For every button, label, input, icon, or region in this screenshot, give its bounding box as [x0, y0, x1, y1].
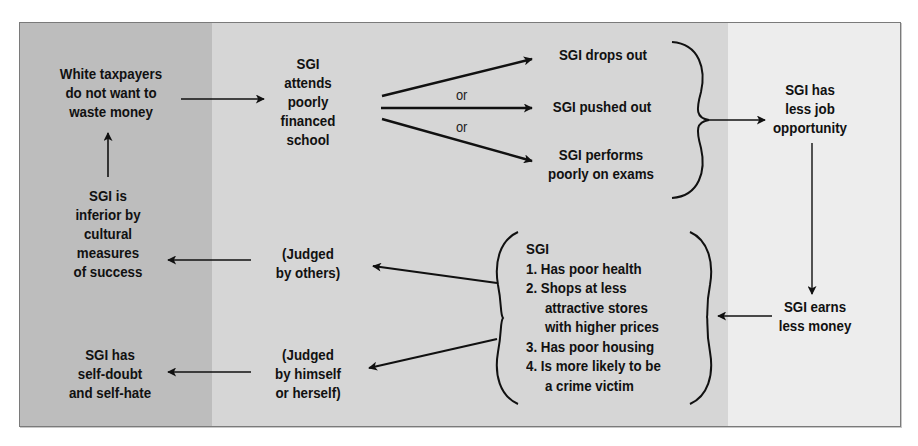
node-line: SGI drops out [547, 45, 659, 64]
node-line: and self-hate [58, 383, 161, 402]
node-line: SGI pushed out [542, 97, 662, 116]
node-inferior: SGI is inferior by cultural measures of … [65, 186, 151, 281]
node-line: measures [65, 243, 151, 262]
node-line: less job [767, 99, 853, 118]
node-earns-less: SGI earns less money [776, 297, 853, 335]
node-line: SGI is [65, 186, 151, 205]
node-line: waste money [55, 102, 167, 121]
list-item: 1. Has poor health [526, 259, 698, 279]
node-line: school [274, 130, 343, 149]
node-line: less money [776, 316, 853, 335]
node-line: (Judged [265, 345, 351, 364]
node-drops-out: SGI drops out [547, 45, 659, 64]
list-item-continuation: a crime victim [526, 376, 698, 396]
label-or-1: or [456, 86, 467, 103]
node-line: poorly [274, 92, 343, 111]
node-line: SGI [274, 54, 343, 73]
node-line: SGI has [767, 80, 853, 99]
node-line: White taxpayers [55, 64, 167, 83]
node-line: inferior by [65, 205, 151, 224]
node-line: or herself) [265, 383, 351, 402]
node-performs-poorly: SGI performs poorly on exams [537, 145, 666, 183]
node-line: by others) [265, 263, 351, 282]
node-line: opportunity [767, 118, 853, 137]
list-item-continuation: attractive stores [526, 298, 698, 318]
list-item: 2. Shops at less [526, 278, 698, 298]
list-item: 4. Is more likely to be [526, 356, 698, 376]
node-line: poorly on exams [537, 164, 666, 183]
node-line: do not want to [55, 83, 167, 102]
node-less-job: SGI has less job opportunity [767, 80, 853, 137]
node-line: SGI earns [776, 297, 853, 316]
node-self-doubt: SGI has self-doubt and self-hate [58, 345, 161, 402]
node-consequences-list: SGI 1. Has poor health 2. Shops at less … [526, 239, 698, 395]
node-pushed-out: SGI pushed out [542, 97, 662, 116]
node-line: financed [274, 111, 343, 130]
node-line: attends [274, 73, 343, 92]
node-line: self-doubt [58, 364, 161, 383]
node-attends-school: SGI attends poorly financed school [274, 54, 343, 149]
node-line: SGI performs [537, 145, 666, 164]
list-heading: SGI [526, 239, 698, 259]
list-item: 3. Has poor housing [526, 337, 698, 357]
node-white-taxpayers: White taxpayers do not want to waste mon… [55, 64, 167, 121]
node-line: (Judged [265, 244, 351, 263]
label-or-2: or [456, 118, 467, 135]
node-line: SGI has [58, 345, 161, 364]
node-judged-others: (Judged by others) [265, 244, 351, 282]
node-judged-self: (Judged by himself or herself) [265, 345, 351, 402]
node-line: cultural [65, 224, 151, 243]
node-line: by himself [265, 364, 351, 383]
node-line: of success [65, 262, 151, 281]
list-item-continuation: with higher prices [526, 317, 698, 337]
